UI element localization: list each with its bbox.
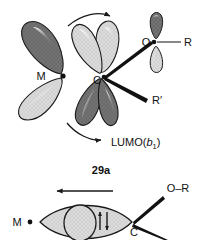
oxygen-center-dot <box>152 40 157 45</box>
figure-canvas: M C O R R′ LUMO(b1) 29a M <box>0 0 202 240</box>
metal-center-dot <box>60 73 65 78</box>
label-oxygen-top: O <box>142 36 151 48</box>
chemistry-figure: M C O R R′ LUMO(b1) 29a M <box>0 0 202 240</box>
label-alkoxy-bottom: O–R <box>167 182 190 194</box>
lumo-suffix: ) <box>157 136 161 148</box>
carbon-center-dot <box>102 75 107 80</box>
label-metal-bottom: M <box>12 216 21 228</box>
label-metal-top: M <box>36 70 45 82</box>
label-substituent-r-prime: R′ <box>152 94 162 106</box>
label-carbon-top: C <box>93 74 101 86</box>
label-substituent-r: R <box>184 36 192 48</box>
lumo-prefix: LUMO( <box>111 136 147 148</box>
label-carbon-bottom: C <box>130 226 138 238</box>
metal-center-dot-bottom <box>28 220 33 225</box>
orbital-node-circle <box>64 205 96 240</box>
figure-number: 29a <box>92 164 111 176</box>
